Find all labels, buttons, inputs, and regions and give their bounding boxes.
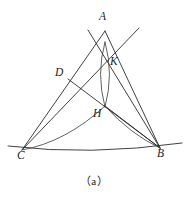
construction-line-from-c [22,28,139,150]
vesica-right-arc [105,42,110,107]
baseline-segment-cb [8,143,182,150]
point-label-c: C [17,150,25,162]
triangle-side-ab [105,31,160,148]
geometry-figure-a: A D K H C B （a） [0,0,188,197]
construction-line-from-b [88,30,160,148]
point-label-b: B [157,148,164,160]
point-label-k: K [110,56,118,68]
segment-h-to-b [105,106,160,148]
point-label-d: D [55,67,63,79]
triangle-side-ac [22,31,105,150]
point-label-h: H [93,108,101,120]
geometry-drawing [0,0,188,197]
figure-caption: （a） [0,172,188,188]
point-label-a: A [99,11,106,23]
